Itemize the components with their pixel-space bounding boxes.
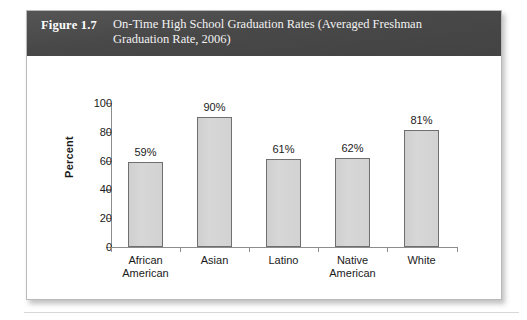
x-tick-mark bbox=[318, 247, 319, 252]
y-tick-label: 0 bbox=[82, 241, 112, 253]
chart-plot-area: Percent 100 80 60 40 20 0 59% African Am… bbox=[27, 56, 501, 301]
figure-title-text: On-Time High School Graduation Rates (Av… bbox=[113, 17, 463, 47]
category-label-line1: African bbox=[128, 254, 162, 266]
bar-asian[interactable] bbox=[197, 117, 232, 247]
x-tick-mark bbox=[111, 247, 112, 252]
bar-latino[interactable] bbox=[266, 159, 301, 247]
category-label-white: White bbox=[391, 254, 452, 267]
category-label-line1: Latino bbox=[269, 254, 299, 266]
bar-value-asian: 90% bbox=[184, 101, 245, 113]
x-tick-mark bbox=[180, 247, 181, 252]
figure-header-bar: Figure 1.7 On-Time High School Graduatio… bbox=[27, 11, 501, 56]
x-tick-mark bbox=[457, 247, 458, 252]
y-tick-label: 80 bbox=[82, 126, 112, 138]
category-label-line1: White bbox=[407, 254, 435, 266]
y-tick-label: 20 bbox=[82, 212, 112, 224]
bar-native-american[interactable] bbox=[335, 158, 370, 247]
bar-value-latino: 61% bbox=[253, 143, 314, 155]
category-label-latino: Latino bbox=[253, 254, 314, 267]
category-label-line2: American bbox=[122, 267, 168, 279]
bar-value-native-american: 62% bbox=[322, 142, 383, 154]
bar-value-white: 81% bbox=[391, 114, 452, 126]
y-tick-label: 40 bbox=[82, 183, 112, 195]
scan-artifact-line bbox=[24, 312, 519, 313]
figure-card: Figure 1.7 On-Time High School Graduatio… bbox=[26, 10, 502, 300]
category-label-line2: American bbox=[329, 267, 375, 279]
category-label-african-american: African American bbox=[115, 254, 176, 280]
x-tick-mark bbox=[249, 247, 250, 252]
bar-white[interactable] bbox=[404, 130, 439, 247]
category-label-line1: Asian bbox=[201, 254, 229, 266]
category-label-native-american: Native American bbox=[322, 254, 383, 280]
figure-number-label: Figure 1.7 bbox=[41, 17, 97, 33]
bar-african-american[interactable] bbox=[128, 162, 163, 247]
y-tick-label: 100 bbox=[82, 97, 112, 109]
x-axis-line bbox=[111, 247, 458, 248]
y-axis-title: Percent bbox=[63, 112, 75, 202]
y-axis-line bbox=[111, 103, 112, 248]
category-label-asian: Asian bbox=[184, 254, 245, 267]
category-label-line1: Native bbox=[337, 254, 368, 266]
y-tick-label: 60 bbox=[82, 155, 112, 167]
x-tick-mark bbox=[387, 247, 388, 252]
bar-value-african-american: 59% bbox=[115, 146, 176, 158]
